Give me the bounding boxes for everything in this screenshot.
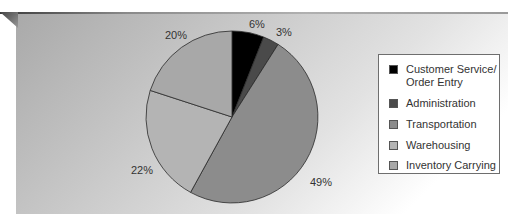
legend-swatch-transportation <box>389 120 398 129</box>
legend-item-inventory-carrying: Inventory Carrying <box>389 159 496 172</box>
legend-label-customer-service: Customer Service/ Order Entry <box>406 63 496 89</box>
legend-label-administration: Administration <box>406 97 476 110</box>
legend-label-warehousing: Warehousing <box>406 139 470 152</box>
label-customer-service-pct: 6% <box>249 18 265 30</box>
legend-item-customer-service: Customer Service/ Order Entry <box>389 63 496 89</box>
legend-item-administration: Administration <box>389 97 476 110</box>
legend-label-transportation: Transportation <box>406 118 477 131</box>
label-transportation-pct: 49% <box>310 176 332 188</box>
label-administration-pct: 3% <box>276 26 292 38</box>
legend-item-transportation: Transportation <box>389 118 477 131</box>
legend-label-inventory-carrying: Inventory Carrying <box>406 159 496 172</box>
chart-legend: Customer Service/ Order Entry Administra… <box>378 54 500 174</box>
legend-swatch-administration <box>389 99 398 108</box>
label-warehousing-pct: 22% <box>131 164 153 176</box>
legend-swatch-warehousing <box>389 141 398 150</box>
legend-label-line1: Customer Service/ <box>406 63 496 75</box>
legend-label-line2: Order Entry <box>406 76 463 88</box>
legend-item-warehousing: Warehousing <box>389 139 470 152</box>
legend-swatch-inventory-carrying <box>389 161 398 170</box>
legend-swatch-customer-service <box>389 65 398 74</box>
label-inventory-carrying-pct: 20% <box>165 29 187 41</box>
